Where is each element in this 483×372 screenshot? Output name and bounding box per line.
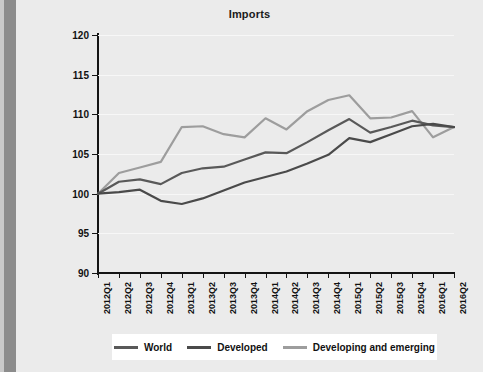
x-tick-label: 2012Q1 — [102, 282, 112, 314]
y-tick-label: 95 — [78, 228, 89, 239]
chart-panel: Imports 9095100105110115120 2012Q12012Q2… — [16, 0, 483, 372]
x-tick-label: 2012Q2 — [123, 282, 133, 314]
x-tick-label: 2014Q3 — [311, 282, 321, 314]
legend-label: Developed — [217, 342, 268, 353]
y-tick-label: 120 — [72, 30, 89, 41]
x-tick-label: 2015Q3 — [395, 282, 405, 314]
legend-swatch-icon — [187, 346, 211, 349]
x-tick — [391, 273, 392, 278]
x-tick-label: 2012Q3 — [144, 282, 154, 314]
series-line — [98, 95, 454, 193]
x-tick — [454, 273, 455, 278]
x-tick-label: 2013Q1 — [186, 282, 196, 314]
x-tick — [245, 273, 246, 278]
x-tick — [98, 273, 99, 278]
plot-area: 9095100105110115120 2012Q12012Q22012Q320… — [98, 35, 454, 273]
x-tick-label: 2015Q1 — [353, 282, 363, 314]
x-tick-label: 2015Q2 — [374, 282, 384, 314]
x-tick — [140, 273, 141, 278]
legend-swatch-icon — [283, 346, 307, 349]
x-tick-label: 2016Q2 — [458, 282, 468, 314]
page-gutter-dark — [4, 0, 16, 372]
legend-label: Developing and emerging — [313, 342, 435, 353]
x-tick — [286, 273, 287, 278]
x-tick-label: 2014Q2 — [290, 282, 300, 314]
x-tick-label: 2013Q3 — [228, 282, 238, 314]
x-tick-label: 2014Q1 — [270, 282, 280, 314]
x-tick — [182, 273, 183, 278]
x-tick — [349, 273, 350, 278]
chart-title: Imports — [16, 8, 483, 20]
x-tick — [370, 273, 371, 278]
x-tick — [119, 273, 120, 278]
legend-item[interactable]: World — [114, 342, 172, 353]
legend-label: World — [144, 342, 172, 353]
x-tick — [328, 273, 329, 278]
chart-legend: WorldDevelopedDeveloping and emerging — [112, 334, 437, 360]
legend-item[interactable]: Developed — [187, 342, 268, 353]
x-tick — [412, 273, 413, 278]
legend-swatch-icon — [114, 346, 138, 349]
x-tick-label: 2014Q4 — [332, 282, 342, 314]
y-tick-label: 100 — [72, 188, 89, 199]
x-tick — [266, 273, 267, 278]
x-tick — [433, 273, 434, 278]
y-tick-label: 90 — [78, 268, 89, 279]
y-tick-label: 110 — [73, 109, 89, 120]
x-tick-label: 2013Q4 — [249, 282, 259, 314]
x-tick-label: 2015Q4 — [416, 282, 426, 314]
x-tick — [203, 273, 204, 278]
x-tick — [307, 273, 308, 278]
x-tick — [161, 273, 162, 278]
x-tick — [224, 273, 225, 278]
y-tick-label: 105 — [72, 149, 89, 160]
x-tick-label: 2012Q4 — [165, 282, 175, 314]
x-tick-label: 2013Q2 — [207, 282, 217, 314]
y-tick-label: 115 — [73, 69, 89, 80]
series-lines — [98, 35, 454, 273]
chart-page: Imports 9095100105110115120 2012Q12012Q2… — [0, 0, 483, 372]
legend-item[interactable]: Developing and emerging — [283, 342, 435, 353]
x-tick-label: 2016Q1 — [437, 282, 447, 314]
